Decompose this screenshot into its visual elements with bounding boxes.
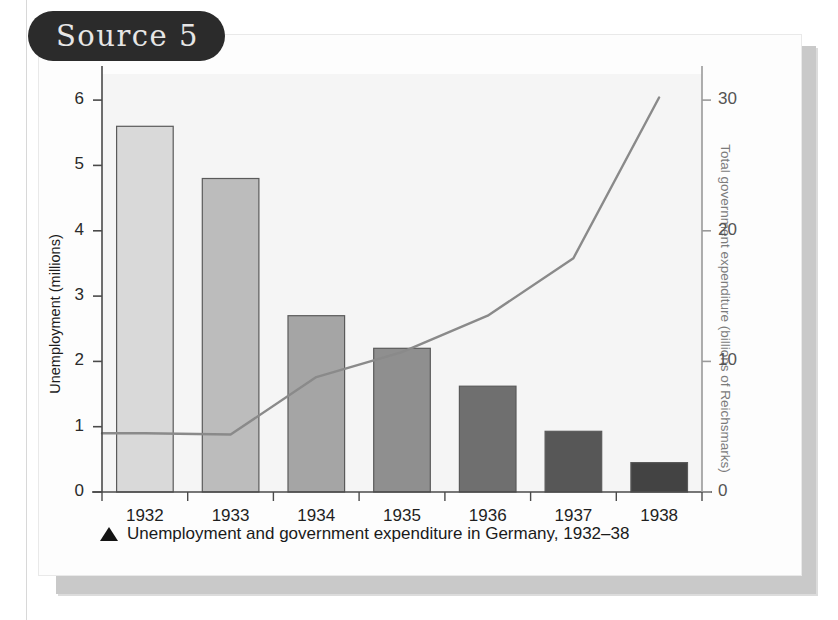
left-tick-label-5: 5 [50, 154, 84, 174]
bar-1935 [374, 348, 431, 492]
left-tick-label-1: 1 [50, 416, 84, 436]
left-tick-label-4: 4 [50, 220, 84, 240]
right-tick-label-0: 0 [718, 481, 752, 501]
source-badge-label: Source 5 [56, 19, 199, 53]
page-margin-rule [26, 0, 27, 620]
bar-1937 [545, 431, 602, 492]
figure-page: Unemployment (millions) Total government… [0, 0, 838, 620]
bar-1936 [459, 386, 516, 492]
chart-area: Unemployment (millions) Total government… [38, 34, 800, 574]
x-tick-label-1935: 1935 [367, 506, 437, 526]
right-tick-label-20: 20 [718, 220, 752, 240]
left-tick-label-3: 3 [50, 285, 84, 305]
figure-caption: Unemployment and government expenditure … [100, 524, 629, 544]
bar-1933 [202, 179, 259, 493]
bar-1932 [117, 126, 174, 492]
source-badge: Source 5 [28, 11, 225, 61]
left-tick-label-2: 2 [50, 350, 84, 370]
up-triangle-icon [100, 527, 118, 541]
figure-caption-text: Unemployment and government expenditure … [127, 524, 629, 544]
x-tick-label-1932: 1932 [110, 506, 180, 526]
right-tick-label-10: 10 [718, 350, 752, 370]
bar-1938 [631, 463, 688, 492]
bar-1934 [288, 316, 345, 492]
x-tick-label-1934: 1934 [281, 506, 351, 526]
x-tick-label-1937: 1937 [538, 506, 608, 526]
left-tick-label-0: 0 [50, 481, 84, 501]
x-tick-label-1936: 1936 [453, 506, 523, 526]
x-tick-label-1933: 1933 [196, 506, 266, 526]
x-tick-label-1938: 1938 [624, 506, 694, 526]
right-tick-label-30: 30 [718, 89, 752, 109]
right-axis-title: Total government expenditure (billions o… [718, 109, 733, 509]
left-axis-title: Unemployment (millions) [47, 174, 63, 454]
left-tick-label-6: 6 [50, 89, 84, 109]
chart-svg [38, 34, 800, 534]
